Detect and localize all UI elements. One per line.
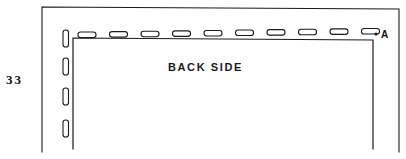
point-a-dot-mark [374, 32, 377, 35]
top-slot [267, 30, 285, 35]
back-side-label: BACK SIDE [168, 62, 243, 73]
left-slot [63, 58, 69, 75]
left-edge-slots [63, 30, 69, 137]
top-slot [236, 30, 254, 36]
top-edge-slots [78, 29, 380, 38]
top-slot [141, 31, 159, 37]
top-slot [173, 31, 191, 37]
top-slot [204, 30, 222, 35]
left-slot [63, 120, 69, 137]
figure-page: 33 BACK SIDE A [0, 0, 406, 159]
top-slot [78, 32, 96, 38]
point-a-label: A [381, 30, 388, 40]
technical-line-drawing [0, 0, 406, 159]
page-number: 33 [6, 73, 23, 86]
top-slot [330, 29, 348, 35]
panel-outline-path [73, 38, 373, 149]
back-panel-outline [73, 38, 373, 149]
left-slot [63, 30, 69, 47]
top-slot [299, 29, 317, 35]
left-slot [63, 88, 69, 105]
top-slot [110, 32, 128, 38]
point-a-dot [374, 32, 377, 35]
